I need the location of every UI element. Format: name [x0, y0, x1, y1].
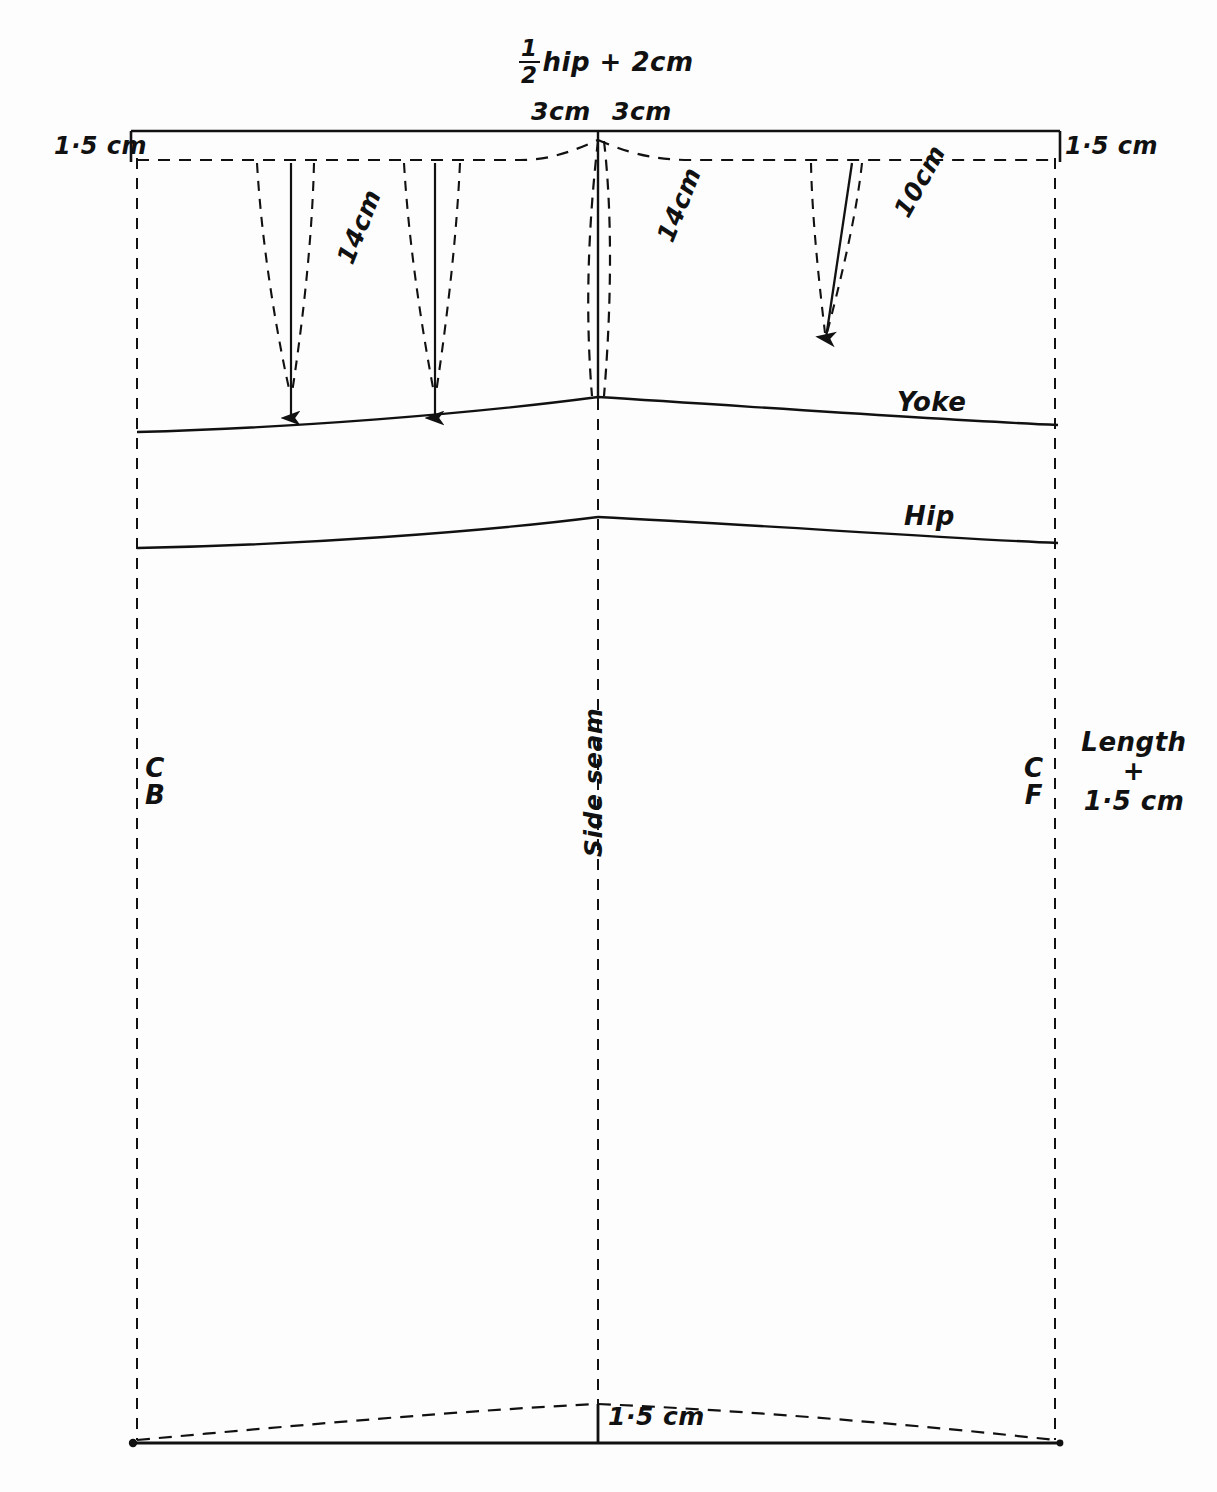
hem-left-dot	[129, 1439, 137, 1447]
length-label: Length + 1·5 cm	[1069, 729, 1199, 815]
side-seam-label: Side seam	[581, 708, 607, 857]
one-half-fraction: 1 2	[519, 37, 540, 87]
front-dart-centre-arrow	[826, 163, 852, 338]
fraction-numerator: 1	[519, 37, 540, 61]
hem-allowance-label: 1·5 cm	[608, 1404, 705, 1430]
hip-formula-text: hip + 2cm	[543, 47, 694, 77]
waist-dashed-back	[137, 140, 598, 160]
yoke-line-back	[137, 397, 598, 432]
waist-takeout-left-label: 3cm	[531, 99, 591, 125]
length-line-3: 1·5 cm	[1069, 788, 1199, 815]
centre-front-line-1: C	[1024, 755, 1044, 782]
centre-back-line-2: B	[145, 782, 165, 809]
pattern-draft-page: 1 2 hip + 2cm 3cm 3cm 1·5 cm 1·5 cm 14cm…	[0, 0, 1217, 1492]
length-line-2: +	[1069, 758, 1199, 785]
hip-label: Hip	[904, 503, 955, 530]
back-dart-2-left-leg	[404, 163, 434, 393]
front-dart	[811, 163, 862, 338]
front-dart-right-leg	[827, 163, 862, 333]
yoke-line-front	[598, 397, 1058, 425]
centre-back-line-1: C	[145, 755, 165, 782]
hem-dashed-back	[137, 1404, 598, 1440]
side-seam-shaping-back	[588, 141, 598, 396]
back-dart-1-left-leg	[257, 163, 290, 393]
side-seam-curve-back	[588, 141, 598, 396]
centre-back-label: C B	[145, 755, 165, 810]
waist-takeout-right-label: 3cm	[612, 99, 672, 125]
back-dart-2-right-leg	[436, 163, 460, 393]
hip-formula-label: 1 2 hip + 2cm	[519, 38, 694, 88]
back-dart-1	[257, 163, 314, 418]
back-dart-2	[404, 163, 460, 418]
waist-dashed-front	[598, 140, 1055, 160]
seam-allowance-left-label: 1·5 cm	[54, 134, 147, 159]
back-dart-1-right-leg	[292, 163, 314, 393]
pattern-draft-svg	[0, 0, 1217, 1492]
hem-dashed-curve	[137, 1404, 1055, 1440]
hem-right-dot	[1057, 1440, 1064, 1447]
length-line-1: Length	[1069, 729, 1199, 756]
hip-line-front	[598, 517, 1058, 543]
centre-front-label: C F	[1024, 755, 1044, 810]
side-seam-curve-front	[604, 141, 610, 396]
yoke-label: Yoke	[897, 389, 966, 416]
centre-front-line-2: F	[1024, 782, 1044, 809]
side-seam-shaping-front	[604, 141, 610, 396]
hem-line-solid	[131, 1404, 1062, 1443]
fraction-denominator: 2	[519, 61, 540, 87]
front-dart-left-leg	[811, 163, 825, 333]
hip-line-back	[137, 517, 598, 548]
seam-allowance-right-label: 1·5 cm	[1065, 134, 1158, 159]
